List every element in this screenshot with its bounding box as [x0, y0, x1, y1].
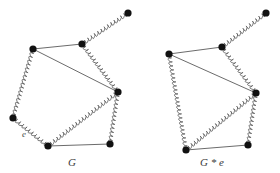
canvas-background — [0, 0, 280, 173]
edge-label-G: e — [22, 129, 26, 139]
node-G-b — [44, 142, 51, 149]
node-G-a — [29, 45, 36, 52]
diagram-canvas: eGG * e — [0, 0, 280, 173]
node-G-p — [124, 9, 131, 16]
node-Ge-b — [182, 146, 189, 153]
node-Ge-r — [252, 89, 259, 96]
node-G-r — [114, 88, 121, 95]
figure-graph-contraction: eGG * e — [0, 0, 280, 173]
caption-G: G — [68, 156, 76, 168]
node-Ge-c — [244, 141, 251, 148]
node-G-c — [106, 140, 113, 147]
node-Ge-p — [262, 9, 269, 16]
node-Ge-a — [165, 50, 172, 57]
node-G-l — [9, 114, 16, 121]
caption-Ge: G * e — [200, 156, 224, 168]
node-G-t — [78, 40, 85, 47]
node-Ge-t — [218, 43, 225, 50]
